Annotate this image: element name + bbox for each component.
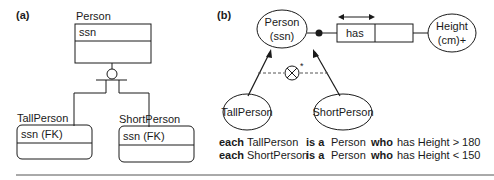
rule-text: Person <box>331 149 366 161</box>
rule-keyword: is a <box>306 136 325 148</box>
height-value-type: Height (cm)+ <box>428 14 476 52</box>
tallperson-entity: TallPerson ssn (FK) <box>17 112 92 159</box>
shortperson-object-type: ShortPerson <box>312 94 373 130</box>
uniqueness-constraint-arrow <box>338 14 375 20</box>
person-entity-name: Person <box>76 10 111 22</box>
subtype-rule-1: each TallPerson is a Person who has Heig… <box>219 136 480 148</box>
person-entity: Person ssn <box>75 10 151 63</box>
panel-a-label: (a) <box>16 9 30 21</box>
shortperson-entity-name: ShortPerson <box>119 113 180 125</box>
person-entity-attribute: ssn <box>79 26 96 38</box>
shortperson-object-name: ShortPerson <box>312 106 373 118</box>
person-object-refmode: (ssn) <box>270 30 294 42</box>
tallperson-entity-attribute: ssn (FK) <box>21 128 63 140</box>
diagram-canvas: (a) Person ssn TallPerson ssn (FK) Short… <box>0 0 494 180</box>
tallperson-entity-name: TallPerson <box>17 112 68 124</box>
rule-text: ShortPerson <box>247 149 308 161</box>
height-value-name: Height <box>436 20 468 32</box>
rule-keyword: who <box>370 149 393 161</box>
shortperson-entity: ShortPerson ssn (FK) <box>119 113 194 162</box>
rule-keyword: is a <box>306 149 325 161</box>
rule-text: has Height < 150 <box>397 149 480 161</box>
has-fact-type: has <box>337 24 413 42</box>
rule-keyword: each <box>219 149 244 161</box>
rule-keyword: who <box>370 136 393 148</box>
person-object-type: Person (ssn) <box>257 10 307 48</box>
shortperson-entity-attribute: ssn (FK) <box>123 130 165 142</box>
rule-keyword: each <box>219 136 244 148</box>
subtype-rule-2: each ShortPerson is a Person who has Hei… <box>219 149 480 161</box>
panel-b-label: (b) <box>217 9 231 21</box>
rule-text: TallPerson <box>247 136 298 148</box>
fact-role-label: has <box>346 27 364 39</box>
height-value-unit: (cm)+ <box>438 34 466 46</box>
tallperson-object-name: TallPerson <box>221 106 272 118</box>
rule-text: Person <box>331 136 366 148</box>
rule-text: has Height > 180 <box>397 136 480 148</box>
exclusion-constraint: * <box>258 61 329 80</box>
person-object-name: Person <box>265 16 300 28</box>
exclusion-mark: * <box>300 61 304 71</box>
tallperson-object-type: TallPerson <box>221 94 272 130</box>
